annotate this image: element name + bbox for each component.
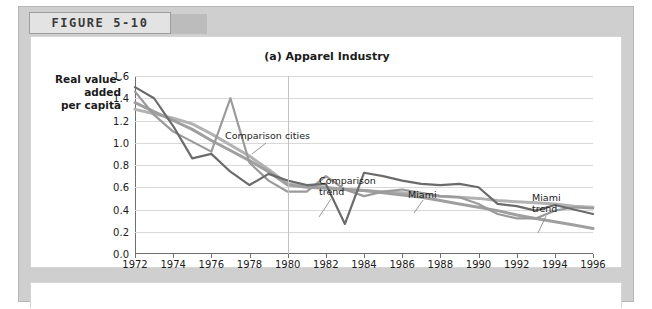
x-tick-mark [326,254,327,258]
series-annotation-label: Comparison cities [225,130,310,141]
x-tick-mark [250,254,251,258]
x-tick-mark [440,254,441,258]
y-tick-label: 0.4 [113,204,129,215]
x-tick-label: 1982 [313,259,338,270]
x-tick-mark [211,254,212,258]
annotation-leader-line [252,143,266,154]
y-tick-label: 1.6 [113,71,129,82]
x-tick-mark [135,254,136,258]
annotation-leader-lines [135,76,593,254]
y-tick-label: 0.8 [113,160,129,171]
x-tick-label: 1978 [237,259,262,270]
x-tick-mark [479,254,480,258]
x-tick-label: 1974 [160,259,185,270]
annotation-leader-line [319,199,331,217]
x-tick-mark [517,254,518,258]
reference-line-1980 [288,76,289,254]
x-tick-mark [593,254,594,258]
chart-panel: (a) Apparel Industry Real value-addedper… [30,36,622,268]
chart-title: (a) Apparel Industry [31,50,623,63]
x-tick-label: 1990 [466,259,491,270]
figure-tab-shadow [171,14,207,34]
x-tick-mark [555,254,556,258]
series-annotation-label: Miami [408,189,437,200]
x-tick-label: 1992 [504,259,529,270]
y-tick-label: 1.2 [113,115,129,126]
y-axis-title-line: per capita [41,99,121,112]
x-tick-label: 1994 [542,259,567,270]
series-annotation-label: Miami trend [532,192,561,214]
y-tick-label: 0.0 [113,249,129,260]
x-tick-label: 1996 [580,259,605,270]
figure-number-tab: FIGURE 5-10 [29,12,171,34]
x-tick-label: 1984 [351,259,376,270]
x-tick-label: 1980 [275,259,300,270]
plot-area: 0.00.20.40.60.81.01.21.41.6 197219741976… [135,76,593,254]
y-tick-label: 1.4 [113,93,129,104]
y-axis-title: Real value-addedper capita [41,73,121,112]
y-tick-label: 0.6 [113,182,129,193]
x-tick-label: 1976 [199,259,224,270]
annotation-leader-line [538,216,546,233]
y-tick-label: 0.2 [113,226,129,237]
figure-number-label: FIGURE 5-10 [51,16,148,30]
y-tick-label: 1.0 [113,137,129,148]
x-tick-mark [288,254,289,258]
y-axis-title-line: added [41,86,121,99]
y-axis-title-line: Real value- [41,73,121,86]
x-tick-mark [364,254,365,258]
next-panel [30,282,622,308]
series-annotation-label: Comparison trend [319,175,376,197]
x-tick-label: 1988 [428,259,453,270]
x-tick-label: 1972 [122,259,147,270]
x-tick-label: 1986 [389,259,414,270]
figure-container: FIGURE 5-10 (a) Apparel Industry Real va… [0,0,652,309]
annotation-leader-line [414,200,423,213]
x-tick-mark [173,254,174,258]
x-tick-mark [402,254,403,258]
